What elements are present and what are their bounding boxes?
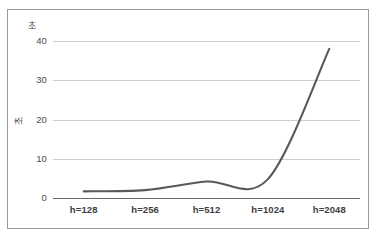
- y-axis-tick-label: 10: [17, 153, 47, 164]
- x-axis-category-label: h=2048: [299, 204, 360, 215]
- x-axis-category-label: h=256: [114, 204, 175, 215]
- y-axis-tick-label: 30: [17, 74, 47, 85]
- x-axis-category-label: h=128: [53, 204, 114, 215]
- x-axis-category-label: h=1024: [237, 204, 298, 215]
- y-axis-tick-label: 20: [17, 114, 47, 125]
- line-chart: 초 초 010203040 h=128h=256h=512h=1024h=204…: [8, 10, 368, 228]
- y-axis-tick-label: 0: [17, 192, 47, 203]
- chart-frame: 초 초 010203040 h=128h=256h=512h=1024h=204…: [7, 9, 369, 229]
- x-axis-category-label: h=512: [176, 204, 237, 215]
- plot-area: [8, 10, 370, 230]
- y-axis-tick-label: 40: [17, 35, 47, 46]
